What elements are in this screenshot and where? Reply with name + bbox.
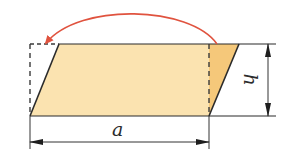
parallelogram-shape <box>30 44 239 116</box>
base-label: a <box>112 120 123 139</box>
curved-move-arrow <box>46 14 217 44</box>
parallelogram-area-diagram: a h <box>0 0 286 152</box>
height-label: h <box>241 73 260 85</box>
